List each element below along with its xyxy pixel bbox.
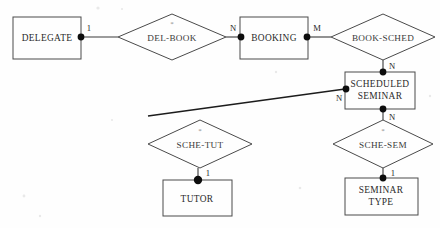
cardinality-del-book-booking: N	[230, 23, 237, 33]
dot-delegate-right	[78, 34, 85, 41]
er-diagram-canvas: * DEL-BOOK BOOK-SCHED * SCHE-TUT * SCHE-…	[0, 0, 440, 228]
dot-scheduled-seminar-bottom	[380, 106, 387, 113]
book-sched-label: BOOK-SCHED	[352, 33, 414, 43]
dot-tutor-top	[194, 176, 202, 184]
delegate-label: DELEGATE	[22, 33, 73, 43]
relationship-sche-tut[interactable]: * SCHE-TUT	[148, 120, 252, 168]
cardinality-delegate-del-book: 1	[87, 23, 91, 33]
del-book-asterisk: *	[170, 20, 174, 28]
relationship-del-book[interactable]: * DEL-BOOK	[118, 14, 226, 60]
dot-booking-left	[238, 34, 245, 41]
cardinality-book-sched-scheduled-seminar: N	[389, 61, 396, 71]
scheduled-seminar-label-line2: SEMINAR	[358, 91, 403, 101]
cardinality-scheduled-seminar-sche-sem: N	[389, 112, 396, 122]
cardinality-labels: 1 N M N N 1 N 1	[87, 23, 396, 178]
sche-sem-label: SCHE-SEM	[359, 140, 407, 150]
booking-label: BOOKING	[251, 33, 297, 43]
entity-scheduled-seminar[interactable]: SCHEDULED SEMINAR	[345, 72, 415, 109]
relationship-sche-sem[interactable]: * SCHE-SEM	[333, 120, 433, 168]
connector-scheduled-seminar-sche-tut	[148, 89, 345, 116]
entity-seminar-type[interactable]: SEMINAR TYPE	[345, 178, 418, 215]
entity-tutor[interactable]: TUTOR	[163, 180, 232, 216]
dot-scheduled-seminar-left	[343, 86, 350, 93]
dot-scheduled-seminar-top	[380, 69, 387, 76]
seminar-type-label-line2: TYPE	[369, 197, 394, 207]
tutor-label: TUTOR	[181, 194, 214, 204]
cardinality-sche-sem-seminar-type: 1	[391, 168, 395, 178]
seminar-type-label-line1: SEMINAR	[359, 185, 404, 195]
dot-seminar-type-top	[380, 175, 387, 182]
relationship-book-sched[interactable]: BOOK-SCHED	[331, 14, 435, 60]
sche-sem-asterisk: *	[381, 127, 385, 135]
connection-dots	[78, 34, 387, 185]
entity-delegate[interactable]: DELEGATE	[13, 17, 81, 59]
cardinality-scheduled-seminar-sche-tut: N	[336, 93, 343, 103]
scheduled-seminar-label-line1: SCHEDULED	[351, 79, 410, 89]
sche-tut-asterisk: *	[198, 127, 202, 135]
dot-booking-right	[304, 34, 311, 41]
connection-lines	[81, 37, 383, 180]
entity-booking[interactable]: BOOKING	[240, 17, 308, 59]
cardinality-booking-book-sched: M	[313, 23, 321, 33]
del-book-label: DEL-BOOK	[147, 33, 196, 43]
sche-tut-label: SCHE-TUT	[177, 140, 224, 150]
cardinality-sche-tut-tutor: 1	[206, 168, 210, 178]
